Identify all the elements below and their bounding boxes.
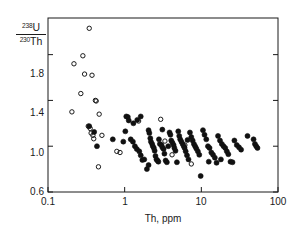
data-point-filled	[206, 159, 211, 164]
data-point-filled	[110, 137, 115, 142]
data-point-filled	[147, 131, 152, 136]
data-point-filled	[166, 144, 171, 149]
data-point-filled	[142, 157, 147, 162]
plot-frame	[48, 18, 278, 192]
data-point-filled	[186, 157, 191, 162]
data-point-filled	[174, 160, 179, 165]
data-point-filled	[123, 129, 128, 134]
data-point-filled	[218, 157, 223, 162]
data-point-filled	[214, 160, 219, 165]
data-point-open	[90, 73, 94, 77]
data-point-open	[81, 54, 85, 58]
data-point-filled	[156, 137, 161, 142]
data-point-filled	[161, 147, 166, 152]
data-point-filled	[173, 148, 178, 153]
data-point-filled	[185, 137, 190, 142]
series-filled-circles	[87, 114, 260, 179]
data-point-open	[163, 139, 167, 143]
data-point-filled	[207, 145, 212, 150]
plot-area	[0, 0, 296, 234]
data-point-open	[82, 72, 86, 76]
data-point-open	[170, 153, 174, 157]
data-point-filled	[204, 137, 209, 142]
data-point-filled	[130, 139, 135, 144]
data-point-filled	[156, 159, 161, 164]
chart-figure: 238U 230Th 1.8 1.4 1.0 0.6 0.1 1 10 100 …	[0, 0, 296, 234]
data-point-filled	[92, 129, 97, 134]
data-point-filled	[216, 133, 221, 138]
data-point-open	[100, 133, 104, 137]
data-point-filled	[230, 160, 235, 165]
data-point-open	[79, 91, 83, 95]
data-point-filled	[212, 155, 217, 160]
data-point-filled	[162, 151, 167, 156]
data-point-filled	[121, 139, 126, 144]
data-point-filled	[138, 114, 143, 119]
data-point-filled	[245, 133, 250, 138]
data-point-filled	[152, 148, 157, 153]
data-point-filled	[94, 144, 99, 149]
data-point-filled	[202, 132, 207, 137]
data-point-filled	[187, 130, 192, 135]
data-point-open	[72, 62, 76, 66]
data-point-filled	[200, 128, 205, 133]
data-point-filled	[168, 132, 173, 137]
data-point-filled	[164, 160, 169, 165]
data-point-filled	[226, 152, 231, 157]
data-point-filled	[126, 118, 131, 123]
data-point-filled	[87, 124, 92, 129]
data-point-open	[97, 112, 101, 116]
data-point-open	[87, 26, 91, 30]
data-point-filled	[232, 138, 237, 143]
data-point-open	[70, 110, 74, 114]
data-point-filled	[251, 137, 256, 142]
data-point-filled	[197, 152, 202, 157]
data-point-filled	[176, 129, 181, 134]
data-point-filled	[146, 163, 151, 168]
data-point-filled	[198, 173, 203, 178]
data-points	[70, 26, 260, 178]
data-point-filled	[255, 145, 260, 150]
data-point-filled	[160, 127, 165, 132]
data-point-open	[158, 117, 162, 121]
data-point-filled	[239, 147, 244, 152]
data-point-open	[96, 165, 100, 169]
data-point-filled	[138, 153, 143, 158]
data-point-open	[189, 162, 193, 166]
